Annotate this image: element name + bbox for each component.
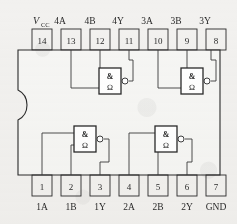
- pin-number-2: 2: [69, 182, 74, 192]
- pin-number-8: 8: [214, 36, 219, 46]
- pin-number-9: 9: [185, 36, 190, 46]
- pin-label-vcc-v: V: [33, 15, 41, 26]
- bottom-pin-numbers: 1 2 3 4 5 6 7: [40, 182, 219, 192]
- gate-3-and-symbol: &: [189, 72, 196, 81]
- gate-2-and-symbol: &: [163, 130, 170, 139]
- gate-4-invert-bubble: [122, 78, 128, 84]
- pin-number-10: 10: [154, 36, 164, 46]
- pin-label-3b: 3B: [170, 16, 181, 26]
- gate-1-inner-glyph: Ω: [82, 141, 88, 150]
- pin-label-2a: 2A: [123, 202, 135, 212]
- pin-number-6: 6: [185, 182, 190, 192]
- gate-1-invert-bubble: [97, 136, 103, 142]
- pin-label-vcc-sub: CC: [41, 21, 50, 28]
- pin-number-12: 12: [96, 36, 105, 46]
- gate-4-and-symbol: &: [107, 72, 114, 81]
- gate-4-inner-glyph: Ω: [107, 83, 113, 92]
- pin-label-3y: 3Y: [199, 16, 211, 26]
- pin-number-5: 5: [156, 182, 161, 192]
- pin-label-gnd: GND: [206, 202, 227, 212]
- pin-label-4y: 4Y: [112, 16, 124, 26]
- pin-number-13: 13: [67, 36, 77, 46]
- pin-number-4: 4: [127, 182, 132, 192]
- pin-number-3: 3: [98, 182, 103, 192]
- pin-number-7: 7: [214, 182, 219, 192]
- gate-2-invert-bubble: [178, 136, 184, 142]
- top-pin-numbers: 14 13 12 11 10 9 8: [38, 36, 219, 46]
- pin-label-1b: 1B: [65, 202, 76, 212]
- pin-label-1y: 1Y: [94, 202, 106, 212]
- pin-label-2b: 2B: [152, 202, 163, 212]
- pin-label-4a: 4A: [54, 16, 66, 26]
- pin-label-3a: 3A: [141, 16, 153, 26]
- ic-pinout-figure: V CC 4A 4B 4Y 3A 3B 3Y 14 13 12 11 10 9 …: [0, 0, 237, 224]
- gate-1-and-symbol: &: [82, 130, 89, 139]
- pin-number-11: 11: [125, 36, 134, 46]
- gate-3-inner-glyph: Ω: [189, 83, 195, 92]
- top-pin-labels: V CC 4A 4B 4Y 3A 3B 3Y: [33, 15, 211, 28]
- pin-number-1: 1: [40, 182, 45, 192]
- pin-label-4b: 4B: [84, 16, 95, 26]
- pin-label-2y: 2Y: [181, 202, 193, 212]
- pin-number-14: 14: [38, 36, 48, 46]
- pin-label-1a: 1A: [36, 202, 48, 212]
- gate-3-invert-bubble: [204, 78, 210, 84]
- bottom-pin-labels: 1A 1B 1Y 2A 2B 2Y GND: [36, 202, 226, 212]
- gate-2-inner-glyph: Ω: [163, 141, 169, 150]
